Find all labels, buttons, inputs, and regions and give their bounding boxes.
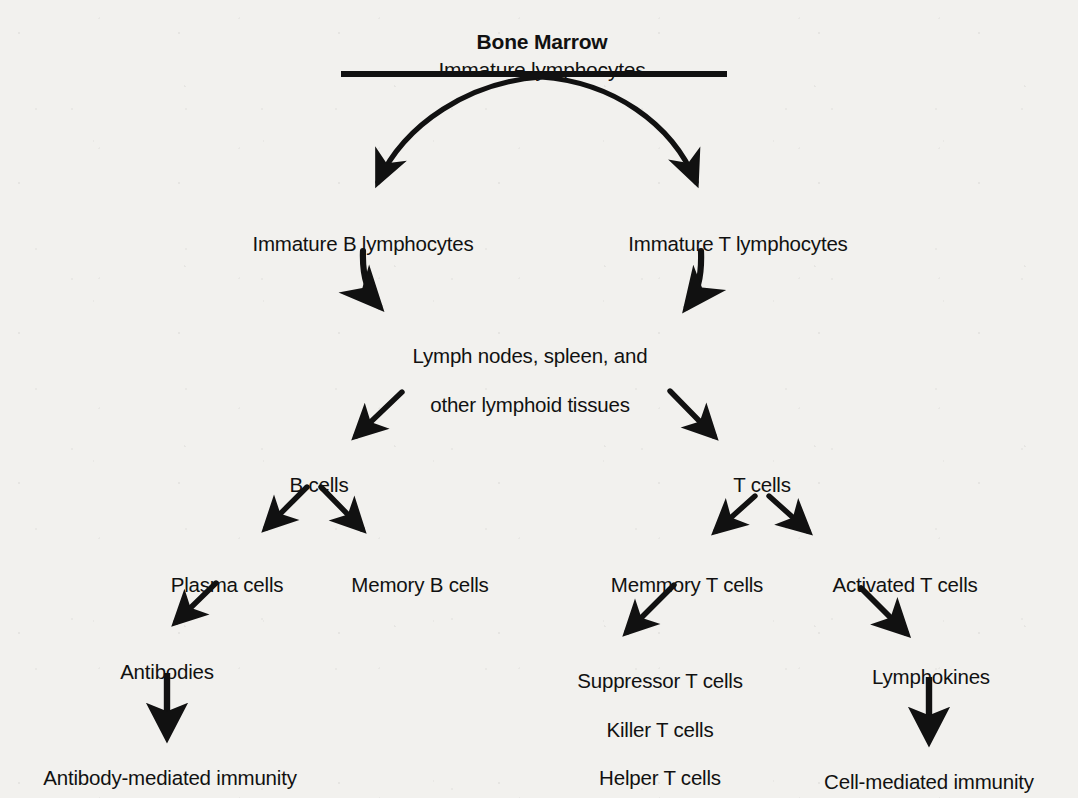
node-immature-t-lymphocytes: Immature T lymphocytes xyxy=(578,208,898,281)
node-memory-t-cells: Memmory T cells xyxy=(567,549,807,622)
immature-b-lymphocytes-label: Immature B lymphocytes xyxy=(203,232,523,256)
b-cells-label: B cells xyxy=(234,473,404,497)
lymphokines-label: Lymphokines xyxy=(836,665,1026,689)
node-lymphoid-tissues: Lymph nodes, spleen, and other lymphoid … xyxy=(370,320,690,441)
memory-b-cells-label: Memory B cells xyxy=(300,573,540,597)
node-antibodies: Antibodies xyxy=(72,636,262,709)
bone-marrow-divider xyxy=(341,71,727,77)
activated-t-cells-label: Activated T cells xyxy=(785,573,1025,597)
suppressor-t-cells-label: Suppressor T cells xyxy=(520,669,800,693)
antibody-mediated-immunity-label: Antibody-mediated immunity xyxy=(0,766,340,790)
antibodies-label: Antibodies xyxy=(72,660,262,684)
node-t-cells: T cells xyxy=(677,449,847,522)
node-lymphokines: Lymphokines xyxy=(836,641,1026,714)
immature-t-lymphocytes-label: Immature T lymphocytes xyxy=(578,232,898,256)
helper-t-cells-label: Helper T cells xyxy=(520,766,800,790)
diagram-canvas: Bone Marrow Immature lymphocytes Immatur… xyxy=(0,0,1078,798)
cell-mediated-immunity-label: Cell-mediated immunity xyxy=(780,770,1078,794)
node-t-cell-subtypes: Suppressor T cells Killer T cells Helper… xyxy=(520,645,800,798)
node-immature-b-lymphocytes: Immature B lymphocytes xyxy=(203,208,523,281)
memory-t-cells-label: Memmory T cells xyxy=(567,573,807,597)
node-cell-mediated-immunity: Cell-mediated immunity xyxy=(780,746,1078,798)
t-cells-label: T cells xyxy=(677,473,847,497)
lymphoid-tissues-line-1: Lymph nodes, spleen, and xyxy=(370,344,690,368)
killer-t-cells-label: Killer T cells xyxy=(520,718,800,742)
node-antibody-mediated-immunity: Antibody-mediated immunity xyxy=(0,742,340,798)
node-b-cells: B cells xyxy=(234,449,404,522)
node-activated-t-cells: Activated T cells xyxy=(785,549,1025,622)
node-memory-b-cells: Memory B cells xyxy=(300,549,540,622)
lymphoid-tissues-line-2: other lymphoid tissues xyxy=(370,393,690,417)
